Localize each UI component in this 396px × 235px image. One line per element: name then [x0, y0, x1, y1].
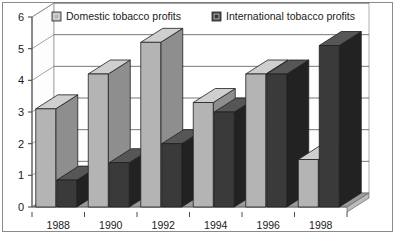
x-axis-tick-label: 1992: [152, 219, 176, 231]
bar-domestic: [193, 103, 213, 208]
x-axis-tick-label: 1998: [309, 219, 333, 231]
bar-international: [267, 74, 287, 207]
bar-domestic: [141, 42, 161, 207]
x-axis-tick-label: 1996: [257, 219, 281, 231]
y-axis-tick-label: 3: [18, 106, 24, 118]
y-axis-tick-label: 1: [18, 169, 24, 181]
bar-international: [214, 112, 234, 207]
bar-international: [319, 46, 339, 208]
y-axis-tick-label: 0: [18, 201, 24, 213]
legend-label-international: International tobacco profits: [226, 10, 355, 22]
bar-international: [57, 180, 77, 207]
chart-container: 0123456198819901992199419961998Domestic …: [0, 0, 396, 235]
y-axis-tick-label: 5: [18, 43, 24, 55]
bar-domestic: [36, 109, 56, 207]
legend-swatch-international: [212, 12, 221, 21]
y-axis-tick-label: 2: [18, 138, 24, 150]
x-axis-tick-label: 1994: [204, 219, 228, 231]
y-axis-tick-label: 4: [18, 74, 24, 86]
legend-label-domestic: Domestic tobacco profits: [66, 10, 181, 22]
x-axis-tick-label: 1990: [99, 219, 123, 231]
bar-international: [109, 163, 129, 207]
bar-domestic: [298, 160, 318, 208]
bar-chart-3d: 0123456198819901992199419961998Domestic …: [0, 0, 396, 235]
bar-international: [162, 144, 182, 207]
bar-international-side: [339, 32, 361, 208]
y-axis-tick-label: 6: [18, 11, 24, 23]
x-axis-tick-label: 1988: [47, 219, 71, 231]
legend-swatch-domestic: [52, 12, 61, 21]
bar-domestic: [246, 74, 266, 207]
bar-domestic: [88, 74, 108, 207]
